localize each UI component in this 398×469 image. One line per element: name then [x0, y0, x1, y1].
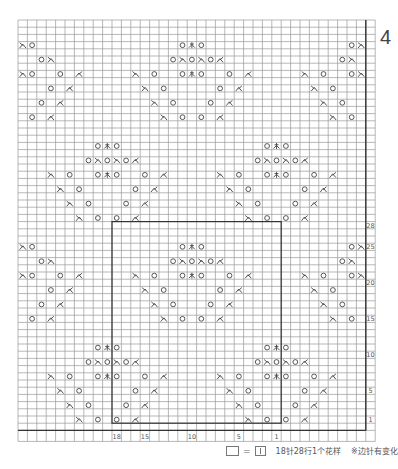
- stitch-yo: [208, 302, 213, 307]
- stitch-k2tog_right: [302, 72, 308, 77]
- stitch-yo: [255, 403, 260, 408]
- stitch-yo: [180, 316, 185, 321]
- stitch-yo: [30, 273, 35, 278]
- stitch-k2tog_left: [76, 273, 82, 278]
- stitch-k2tog_right: [57, 187, 63, 192]
- stitch-yo: [199, 43, 204, 48]
- stitch-k2tog_left: [48, 316, 54, 321]
- stitch-k2tog_right: [114, 158, 120, 163]
- stitch-k2tog_right: [311, 288, 317, 293]
- stitch-k2tog_right: [48, 57, 54, 62]
- stitch-yo: [124, 403, 129, 408]
- stitch-yo: [30, 316, 35, 321]
- stitch-k2tog_right: [264, 360, 270, 365]
- stitch-yo: [199, 72, 204, 77]
- stitch-k2tog_right: [142, 288, 148, 293]
- stitch-yo: [302, 388, 307, 393]
- stitch-k2tog_right: [227, 187, 233, 192]
- stitch-k2tog_right: [142, 86, 148, 91]
- stitch-k2tog_left: [76, 72, 82, 77]
- stitch-yo: [349, 72, 354, 77]
- stitch-k2tog_left: [48, 115, 54, 120]
- stitch-k2tog_right: [20, 72, 26, 77]
- stitch-k2tog_right: [151, 100, 157, 105]
- stitch-k2tog_right: [217, 172, 223, 177]
- stitch-k2tog_right: [76, 417, 82, 422]
- stitch-k2tog_left: [217, 316, 223, 321]
- stitch-k2tog_left: [302, 417, 308, 422]
- stitch-cdd: [189, 273, 195, 279]
- stitch-yo: [293, 403, 298, 408]
- stitch-cdd: [189, 244, 195, 250]
- stitch-k2tog_right: [180, 57, 186, 62]
- stitch-yo: [265, 172, 270, 177]
- stitch-yo: [105, 158, 110, 163]
- stitch-yo: [255, 360, 260, 365]
- stitch-k2tog_right: [161, 316, 167, 321]
- stitch-k2tog_right: [358, 72, 364, 77]
- stitch-k2tog_left: [245, 72, 251, 77]
- stitch-k2tog_right: [95, 360, 101, 365]
- stitch-yo: [255, 201, 260, 206]
- stitch-yo: [67, 374, 72, 379]
- stitch-yo: [274, 360, 279, 365]
- stitch-yo: [180, 244, 185, 249]
- stitch-yo: [284, 216, 289, 221]
- stitch-k2tog_right: [161, 115, 167, 120]
- stitch-yo: [340, 100, 345, 105]
- stitch-yo: [39, 100, 44, 105]
- stitch-yo: [161, 86, 166, 91]
- stitch-yo: [265, 144, 270, 149]
- stitch-yo: [246, 388, 251, 393]
- column-label: 15: [141, 433, 149, 441]
- stitch-yo: [152, 273, 157, 278]
- stitch-cdd: [274, 172, 280, 178]
- stitch-k2tog_left: [57, 100, 63, 105]
- stitch-yo: [246, 187, 251, 192]
- stitch-yo: [96, 216, 101, 221]
- stitch-yo: [349, 43, 354, 48]
- stitch-yo: [340, 57, 345, 62]
- stitch-yo: [180, 72, 185, 77]
- stitch-yo: [265, 345, 270, 350]
- stitch-yo: [49, 86, 54, 91]
- stitch-k2tog_right: [236, 403, 242, 408]
- stitch-k2tog_right: [48, 374, 54, 379]
- stitch-yo: [274, 158, 279, 163]
- stitch-k2tog_left: [217, 115, 223, 120]
- stitch-yo: [133, 388, 138, 393]
- stitch-k2tog_left: [226, 302, 232, 307]
- repeat-text: 18针28行1个花样: [276, 445, 341, 456]
- stitch-yo: [180, 43, 185, 48]
- stitch-yo: [208, 100, 213, 105]
- stitch-yo: [284, 345, 289, 350]
- stitch-k2tog_right: [236, 201, 242, 206]
- stitch-k2tog_left: [151, 388, 157, 393]
- empty-cell-icon: [226, 446, 239, 456]
- stitch-yo: [180, 115, 185, 120]
- row-label: 5: [368, 387, 372, 395]
- stitch-yo: [218, 288, 223, 293]
- stitch-yo: [152, 72, 157, 77]
- stitch-yo: [114, 345, 119, 350]
- stitch-yo: [114, 374, 119, 379]
- stitch-yo: [114, 172, 119, 177]
- stitch-yo: [124, 201, 129, 206]
- stitch-yo: [96, 144, 101, 149]
- stitch-yo: [96, 172, 101, 177]
- stitch-k2tog_left: [142, 403, 148, 408]
- stitch-yo: [237, 172, 242, 177]
- stitch-k2tog_right: [302, 273, 308, 278]
- stitch-yo: [227, 72, 232, 77]
- stitch-yo: [114, 417, 119, 422]
- stitch-yo: [49, 288, 54, 293]
- stitch-k2tog_right: [349, 57, 355, 62]
- column-label: 18: [113, 433, 121, 441]
- stitch-yo: [331, 288, 336, 293]
- stitch-k2tog_right: [245, 417, 251, 422]
- stitch-yo: [255, 158, 260, 163]
- stitch-k2tog_right: [358, 244, 364, 249]
- stitch-k2tog_left: [132, 216, 138, 221]
- stitch-k2tog_left: [302, 360, 308, 365]
- stitch-k2tog_right: [133, 273, 139, 278]
